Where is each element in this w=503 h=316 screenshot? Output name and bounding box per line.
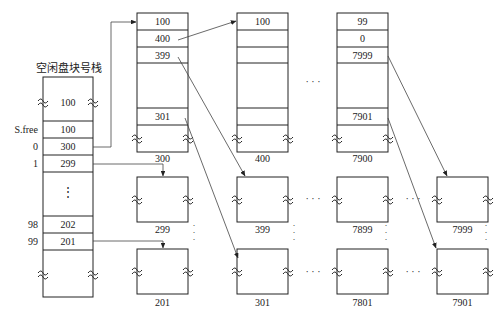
group-cell: 7901: [337, 111, 388, 123]
block-row1-ellipsis: · · ·: [298, 193, 328, 205]
block-label: 301: [237, 297, 288, 309]
group-label: 400: [237, 153, 288, 165]
group-cell: 100: [237, 16, 288, 28]
block-label: 7801: [337, 297, 388, 309]
group-cell: 7999: [337, 50, 388, 62]
vertical-ellipsis-2: ···: [290, 222, 298, 243]
group-cell: 400: [137, 33, 188, 45]
stack-cell: 201: [43, 236, 93, 248]
stack-index-sfree: S.free: [8, 124, 38, 136]
group-label: 300: [137, 153, 188, 165]
block-label: 7899: [337, 224, 388, 236]
block-row2-ellipsis: · · ·: [298, 266, 328, 278]
group-ellipsis: · · ·: [297, 76, 329, 88]
vertical-ellipsis-4: ···: [482, 222, 490, 243]
stack-cell: 299: [43, 158, 93, 170]
block-label: 7901: [437, 297, 488, 309]
stack-cell: 100: [43, 124, 93, 136]
stack-cell: 300: [43, 141, 93, 153]
stack-cell: 202: [43, 219, 93, 231]
group-cell: 99: [337, 16, 388, 28]
group-cell: 0: [337, 33, 388, 45]
block-row1-ellipsis-right: · · ·: [398, 193, 428, 205]
group-cell: 100: [137, 16, 188, 28]
stack-title: 空闲盘块号栈: [36, 59, 102, 75]
group-cell: 399: [137, 50, 188, 62]
stack-index-1: 1: [8, 158, 38, 170]
vertical-ellipsis-3: ···: [382, 222, 390, 243]
block-label: 299: [137, 224, 188, 236]
stack-vertical-ellipsis: ⋮: [43, 186, 93, 198]
group-label: 7900: [337, 153, 388, 165]
group-cell: 301: [137, 111, 188, 123]
block-label: 7999: [437, 224, 488, 236]
vertical-ellipsis-1: ···: [190, 222, 198, 243]
block-label: 201: [137, 297, 188, 309]
block-row2-ellipsis-right: · · ·: [398, 266, 428, 278]
stack-index-0: 0: [8, 141, 38, 153]
stack-index-98: 98: [8, 219, 38, 231]
stack-index-99: 99: [8, 236, 38, 248]
block-label: 399: [237, 224, 288, 236]
stack-top-value: 100: [43, 97, 93, 109]
